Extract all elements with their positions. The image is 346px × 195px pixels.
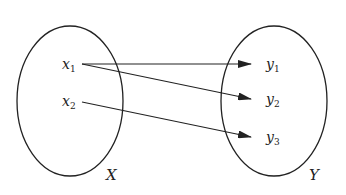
element-y2: y2 [265,91,280,109]
element-x2: x2 [62,93,76,111]
set-y-label: Y [309,166,321,184]
mapping-diagram: x1 x2 y1 y2 y3 X Y [0,0,346,195]
element-x1: x1 [62,56,76,74]
arrow-x2-y3 [82,102,251,137]
element-y1: y1 [265,56,280,74]
set-x-label: X [105,166,118,184]
element-y3: y3 [265,129,280,147]
